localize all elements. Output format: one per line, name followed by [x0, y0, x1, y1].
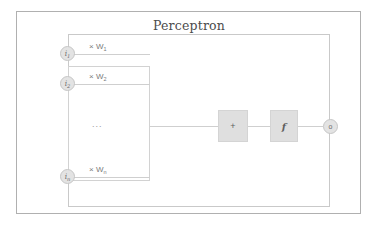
page-title: Perceptron	[0, 18, 378, 33]
wire-summation-to-activation	[248, 126, 270, 127]
activation-function-label: f	[282, 121, 286, 132]
wire-weights-to-summation	[150, 126, 218, 127]
output-node-label: o	[329, 123, 333, 130]
weight-label-wn-text: × W	[89, 165, 103, 174]
summation-block: +	[218, 110, 248, 142]
perceptron-diagram-screenshot: Perceptron i1 i2 in × W1 × W2 × Wn ... +…	[0, 0, 378, 229]
weight-label-w2-subscript: 2	[103, 76, 106, 82]
wire-input-2-to-weights	[68, 84, 150, 85]
wire-input-1-to-weights	[68, 54, 150, 55]
weight-label-w2-text: × W	[89, 72, 103, 81]
input-node-i2: i2	[60, 76, 75, 91]
input-node-in: in	[60, 169, 75, 184]
ellipsis-indicator: ...	[92, 119, 103, 129]
summation-block-label: +	[230, 121, 235, 131]
input-node-in-subscript: n	[67, 176, 70, 182]
wire-input-n-to-weights	[68, 177, 150, 178]
activation-function-block: f	[270, 110, 298, 142]
wire-activation-to-output	[298, 126, 323, 127]
weight-label-w2: × W2	[89, 72, 107, 81]
weight-label-w1-subscript: 1	[103, 46, 106, 52]
weight-label-w1-text: × W	[89, 42, 103, 51]
input-node-i2-subscript: 2	[67, 83, 70, 89]
weight-label-wn-subscript: n	[103, 169, 106, 175]
input-node-i1: i1	[60, 46, 75, 61]
weight-label-w1: × W1	[89, 42, 107, 51]
output-node: o	[323, 119, 338, 134]
weight-label-wn: × Wn	[89, 165, 107, 174]
input-node-i1-subscript: 1	[67, 53, 70, 59]
